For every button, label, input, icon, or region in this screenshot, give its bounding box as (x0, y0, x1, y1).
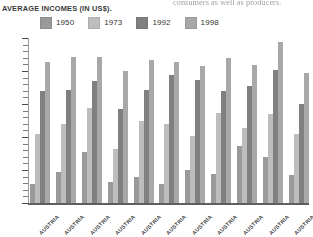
page-bleed-text: consumers as well as producers. (173, 0, 309, 7)
x-axis-line (28, 203, 309, 205)
y-axis-tick (23, 51, 28, 52)
y-axis-tick (23, 64, 28, 65)
x-axis-label: Austria (242, 214, 264, 236)
y-axis-tick (22, 104, 29, 105)
bar-group (185, 38, 205, 203)
bar-1998[interactable] (304, 73, 309, 203)
bar-group (56, 38, 76, 203)
y-axis-tick (23, 84, 28, 85)
x-axis-label: Austria (165, 214, 187, 236)
y-axis-tick (23, 97, 28, 98)
y-axis-tick (22, 71, 29, 72)
bar-group (237, 38, 257, 203)
bar-1998[interactable] (200, 66, 205, 203)
x-axis-label: Austria (293, 214, 313, 236)
legend-item-1998[interactable]: 1998 (185, 17, 219, 29)
y-axis-tick (22, 170, 29, 171)
bar-1998[interactable] (149, 60, 154, 204)
x-axis-label: Austria (267, 214, 289, 236)
legend-item-label: 1998 (201, 18, 219, 28)
bar-1998[interactable] (45, 62, 50, 204)
chart-legend: 1950197319921998 (40, 17, 219, 29)
legend-item-label: 1950 (56, 18, 74, 28)
bar-1998[interactable] (71, 57, 76, 204)
y-axis-tick (23, 157, 28, 158)
x-axis-labels: AustriaAustriaAustriaAustriaAustriaAustr… (28, 206, 309, 237)
y-axis-tick (23, 130, 28, 131)
chart-page: consumers as well as producers. Average … (0, 0, 313, 237)
legend-item-1973[interactable]: 1973 (88, 17, 122, 29)
x-axis-label: Austria (89, 214, 111, 236)
chart-title: Average Incomes (in US$). (2, 4, 112, 13)
x-axis-label: Austria (37, 214, 59, 236)
x-axis-label: Austria (191, 214, 213, 236)
plot-area (28, 38, 309, 205)
bar-group (289, 38, 309, 203)
bar-groups (30, 38, 309, 203)
bar-1998[interactable] (252, 65, 257, 204)
x-axis-label: Austria (63, 214, 85, 236)
y-axis-tick (23, 58, 28, 59)
legend-swatch-icon (136, 17, 148, 29)
legend-item-label: 1973 (104, 18, 122, 28)
y-axis-tick (23, 196, 28, 197)
legend-swatch-icon (40, 17, 52, 29)
y-axis-tick (23, 78, 28, 79)
y-axis-tick (23, 190, 28, 191)
y-axis-tick (23, 111, 28, 112)
bar-group (211, 38, 231, 203)
y-axis-tick (23, 117, 28, 118)
y-axis-tick (23, 91, 28, 92)
y-axis-tick (22, 137, 29, 138)
y-axis-tick (23, 183, 28, 184)
bar-1998[interactable] (123, 71, 128, 203)
bar-group (263, 38, 283, 203)
bar-1998[interactable] (174, 62, 179, 204)
bar-1998[interactable] (226, 58, 231, 203)
y-axis-tick (23, 45, 28, 46)
bar-1998[interactable] (97, 57, 102, 204)
legend-swatch-icon (185, 17, 197, 29)
y-axis-tick (23, 124, 28, 125)
y-axis-tick (23, 144, 28, 145)
y-axis-tick (23, 163, 28, 164)
x-axis-label: Austria (216, 214, 238, 236)
legend-item-1950[interactable]: 1950 (40, 17, 74, 29)
legend-item-1992[interactable]: 1992 (136, 17, 170, 29)
x-axis-label: Austria (114, 214, 136, 236)
y-axis-tick (22, 38, 29, 39)
x-axis-label: Austria (140, 214, 162, 236)
y-axis-tick (23, 150, 28, 151)
bar-1998[interactable] (278, 42, 283, 204)
legend-swatch-icon (88, 17, 100, 29)
bar-group (108, 38, 128, 203)
bar-group (82, 38, 102, 203)
legend-item-label: 1992 (152, 18, 170, 28)
bar-group (30, 38, 50, 203)
y-axis-line (28, 38, 29, 205)
y-axis-tick (23, 177, 28, 178)
y-axis-ticks (21, 38, 28, 203)
bar-group (159, 38, 179, 203)
bar-group (134, 38, 154, 203)
